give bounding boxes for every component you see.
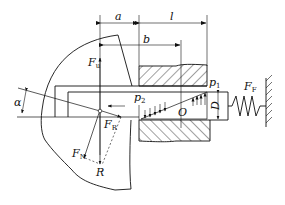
force-fr <box>102 111 121 117</box>
label-p2: p2 <box>134 91 146 105</box>
alpha-arc <box>22 91 26 113</box>
label-o: O <box>178 106 187 119</box>
label-fu: Fu <box>87 56 101 70</box>
force-fn <box>84 113 99 158</box>
label-ff: FF <box>243 80 257 94</box>
label-r: R <box>95 166 104 179</box>
upper-guide-block <box>139 64 207 86</box>
force-diagram: a l b α D <box>0 0 285 205</box>
wall-hatch <box>266 75 272 123</box>
label-a: a <box>115 10 122 23</box>
lower-guide-block <box>139 120 210 142</box>
label-fn: FN <box>71 147 86 161</box>
label-b: b <box>143 33 150 46</box>
label-fr: FR <box>103 118 118 132</box>
label-l: l <box>170 10 174 23</box>
label-alpha: α <box>14 96 22 109</box>
force-origin <box>98 109 102 113</box>
spring <box>228 96 266 116</box>
construction-line-2 <box>85 158 100 164</box>
label-p1: p1 <box>209 76 221 90</box>
rake-line <box>18 88 100 111</box>
label-d: D <box>209 101 222 111</box>
workpiece-edge <box>118 35 132 86</box>
